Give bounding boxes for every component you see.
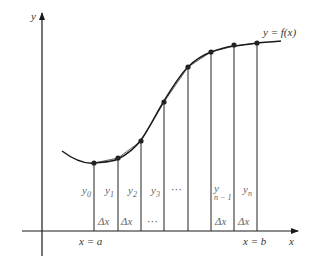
- trapezoid-rule-diagram: y x y = f(x) y0 y1 y2 y3 ⋯ yn − 1 yn: [0, 0, 315, 267]
- ordinate-label-y1: y1: [104, 184, 114, 199]
- ordinate-label-y2: y2: [127, 184, 137, 199]
- upper-bound-label: x = b: [242, 235, 267, 247]
- ordinate-label-y0: y0: [81, 184, 91, 199]
- ordinate-label-yn-1: yn − 1: [213, 182, 231, 202]
- sample-point: [208, 49, 213, 54]
- ordinate-lines: [94, 43, 257, 231]
- ordinate-label-yn: yn: [242, 183, 252, 198]
- sample-point: [138, 138, 143, 143]
- sample-point: [185, 64, 190, 69]
- ordinate-label-y3: y3: [150, 184, 160, 199]
- lower-bound-label: x = a: [78, 235, 103, 247]
- width-label: ⋯: [146, 215, 157, 227]
- width-label: Δx: [237, 215, 249, 227]
- sample-point: [91, 160, 96, 165]
- width-label: Δx: [120, 215, 132, 227]
- sample-point: [115, 155, 120, 160]
- ordinate-label-ellipsis: ⋯: [170, 183, 181, 195]
- width-labels: Δx Δx ⋯ Δx Δx: [97, 215, 249, 227]
- width-label: Δx: [214, 215, 226, 227]
- sample-point: [231, 42, 236, 47]
- curve-label: y = f(x): [262, 26, 296, 39]
- y-axis-label: y: [30, 10, 36, 22]
- ordinate-labels: y0 y1 y2 y3 ⋯ yn − 1 yn: [81, 182, 252, 202]
- sample-point: [254, 40, 259, 45]
- curve-f: [62, 41, 281, 163]
- trapezoid-chords: [94, 43, 257, 163]
- width-label: Δx: [97, 215, 109, 227]
- x-axis-label: x: [288, 235, 294, 247]
- sample-point: [161, 99, 166, 104]
